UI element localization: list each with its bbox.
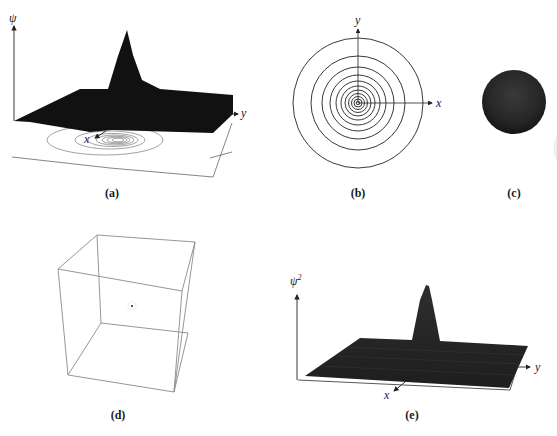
sphere	[482, 70, 546, 134]
x-axis-e	[394, 382, 405, 391]
cube-top	[58, 235, 195, 291]
y-label-a: y	[240, 106, 247, 120]
x-label-a: x	[83, 132, 90, 146]
caption-a: (a)	[105, 186, 119, 200]
psi-sq-label-e: ψ2	[290, 273, 301, 288]
figure-canvas: ψ y x (a) y x (b) (c)	[0, 0, 557, 436]
panel-c: (c)	[482, 70, 557, 200]
caption-b: (b)	[351, 186, 366, 200]
caption-d: (d)	[111, 408, 126, 422]
panel-d	[58, 235, 195, 392]
panel-a: ψ y x (a)	[9, 11, 247, 200]
panel-b: y x (b)	[293, 13, 442, 200]
cube-edge	[174, 242, 195, 392]
cube-edge	[97, 235, 101, 323]
y-label-e: y	[534, 360, 541, 374]
x-label-e: x	[383, 388, 390, 402]
x-label-b: x	[435, 96, 442, 110]
panel-e: ψ2 y x (e)	[290, 273, 541, 422]
surface-a	[14, 30, 233, 133]
caption-e: (e)	[405, 408, 418, 422]
cube-edge	[58, 269, 68, 375]
surface-e	[305, 285, 528, 388]
psi-label-a: ψ	[9, 11, 17, 25]
edge-artifact	[554, 135, 557, 162]
y-label-b: y	[354, 13, 361, 27]
caption-c: (c)	[507, 186, 520, 200]
nucleus-dot	[131, 305, 133, 307]
cube-bottom	[68, 323, 188, 392]
